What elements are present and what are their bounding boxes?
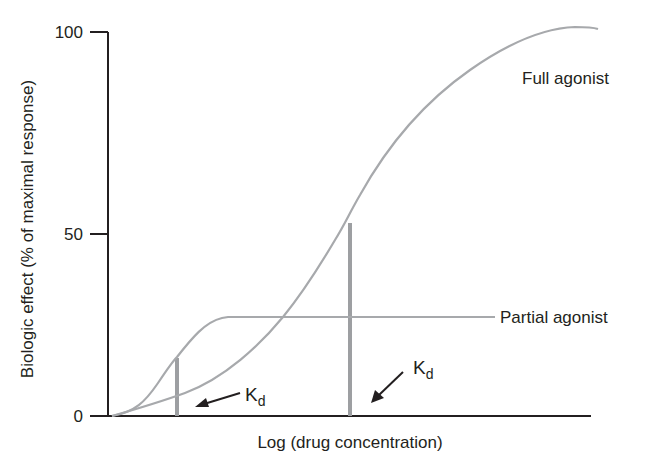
- axes: [90, 32, 591, 417]
- y-tick-label-100: 100: [55, 23, 83, 42]
- arrowhead-icon: [195, 398, 209, 407]
- partial-agonist-label: Partial agonist: [500, 308, 608, 327]
- dose-response-chart: 100 50 0 Biologic effect (% of maximal r…: [0, 0, 652, 464]
- kd-label-partial: Kd: [245, 384, 265, 409]
- y-tick-label-50: 50: [64, 225, 83, 244]
- y-tick-label-0: 0: [74, 407, 83, 426]
- kd-arrow-partial: [195, 393, 240, 407]
- full-agonist-label: Full agonist: [522, 69, 609, 88]
- kd-label-full: Kd: [413, 357, 433, 382]
- partial-agonist-curve: [112, 317, 495, 416]
- kd-arrow-full: [371, 372, 403, 403]
- x-axis-title: Log (drug concentration): [257, 433, 442, 452]
- y-axis-title: Biologic effect (% of maximal response): [18, 80, 37, 378]
